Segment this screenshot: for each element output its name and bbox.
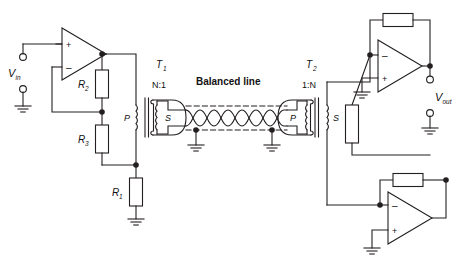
vout-terminal-bottom (427, 110, 434, 128)
t2-pri-lead-bottom (287, 126, 307, 134)
label-r1-sub: 1 (119, 193, 123, 200)
opamp1-feedback-wire (52, 67, 102, 112)
t2-pri-lead-top (287, 101, 307, 110)
label-t1: T (156, 59, 163, 70)
label-t1-secondary: S (165, 113, 171, 123)
opamp1-minus-label: – (66, 62, 72, 73)
label-vout-sub: out (443, 98, 453, 105)
t1-sec-lead-top (157, 101, 186, 110)
ground-line-left (188, 145, 204, 151)
label-t2-secondary: S (333, 113, 339, 123)
output-opamp-top (378, 40, 422, 92)
vin-terminal-bottom (20, 86, 27, 106)
label-balanced-line: Balanced line (196, 76, 261, 87)
opamp2-minus-label: – (382, 50, 388, 61)
opamp3-plus-label: + (392, 226, 397, 236)
circuit-svg: V in V out R 2 R 3 R 1 T 1 N:1 T 2 1:N B… (0, 0, 461, 275)
label-r3-sub: 3 (85, 140, 89, 147)
t2-core (315, 98, 319, 137)
circuit-diagram: V in V out R 2 R 3 R 1 T 1 N:1 T 2 1:N B… (0, 0, 461, 275)
label-t2-ratio: 1:N (302, 80, 316, 90)
ground-bottom-opamp (364, 248, 380, 254)
t2-primary-coil (306, 101, 307, 134)
balanced-line-shield (186, 106, 287, 130)
vin-terminal-top (20, 44, 62, 60)
opamp3-out-wire (432, 180, 446, 218)
t1-sec-lead-bottom (157, 126, 186, 134)
resistor-r2 (96, 54, 109, 112)
label-vin-sub: in (16, 74, 21, 81)
label-r2-sub: 2 (84, 85, 89, 92)
t1-core (145, 98, 149, 137)
twisted-pair (186, 110, 287, 126)
opamp1-plus-label: + (66, 40, 71, 50)
ground-r1 (128, 219, 144, 225)
opamp3-plus-pin (372, 230, 388, 248)
label-t1-ratio: N:1 (152, 80, 166, 90)
vout-terminal-top (427, 66, 434, 83)
opamp2-plus-label: + (382, 74, 387, 84)
label-t2-sub: 2 (312, 65, 317, 72)
opamp3-minus-label: – (392, 200, 398, 211)
label-t1-sub: 1 (163, 65, 167, 72)
t1-primary-coil (136, 105, 137, 130)
t1-secondary-coil (156, 101, 157, 134)
ground-vin (15, 106, 31, 112)
t2-secondary-coil (327, 82, 328, 205)
label-t2-primary: P (290, 113, 296, 123)
ground-vout (422, 128, 438, 134)
resistor-r1 (130, 165, 143, 219)
node-bottom-opamp-out (443, 177, 449, 183)
ground-line-right (264, 145, 280, 151)
label-t1-primary: P (124, 113, 130, 123)
label-t2: T (306, 59, 313, 70)
